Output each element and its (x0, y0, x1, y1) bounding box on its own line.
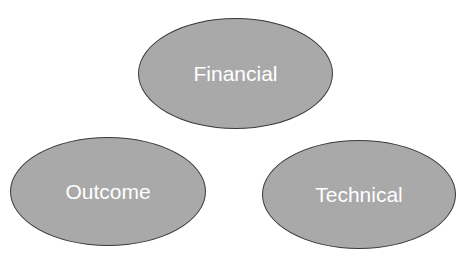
outcome-label: Outcome (65, 180, 150, 204)
outcome-node: Outcome (10, 137, 206, 246)
technical-node: Technical (262, 140, 456, 249)
financial-node: Financial (138, 18, 333, 129)
technical-label: Technical (315, 183, 403, 207)
financial-label: Financial (193, 62, 277, 86)
